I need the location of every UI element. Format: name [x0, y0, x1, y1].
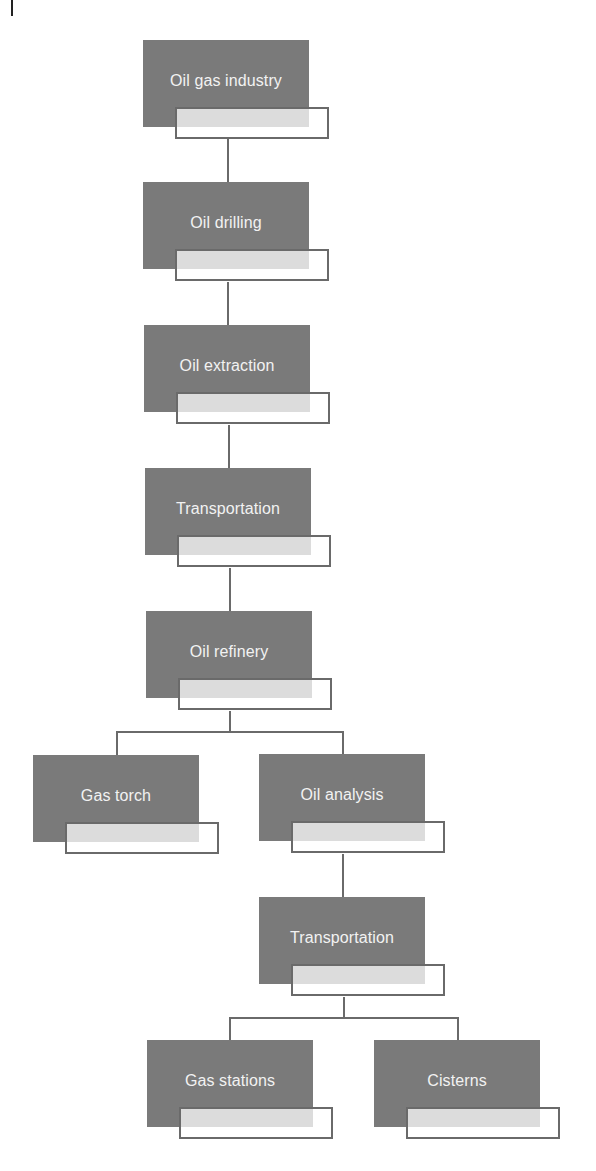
node-label: Oil extraction — [180, 357, 275, 375]
node-gas-torch: Gas torch — [33, 755, 223, 855]
node-oil-refinery: Oil refinery — [146, 611, 336, 711]
node-tab — [177, 535, 331, 567]
node-tab — [65, 822, 219, 854]
connector-n2-n3 — [227, 282, 229, 325]
node-tab — [406, 1107, 560, 1139]
connector-n7-n8 — [342, 854, 344, 897]
connector-to-n6 — [116, 731, 118, 755]
node-oil-extraction: Oil extraction — [144, 325, 334, 425]
connector-n3-n4 — [228, 425, 230, 468]
node-tab — [175, 107, 329, 139]
connector-to-n9 — [229, 1017, 231, 1040]
connector-to-n7 — [342, 731, 344, 754]
node-label: Gas torch — [81, 787, 151, 805]
node-transportation-1: Transportation — [145, 468, 335, 568]
node-oil-gas-industry: Oil gas industry — [143, 40, 333, 140]
node-tab — [179, 1107, 333, 1139]
connector-n8-branch — [229, 1017, 459, 1019]
node-label: Oil analysis — [300, 786, 383, 804]
node-tab — [175, 249, 329, 281]
node-tab — [176, 392, 330, 424]
node-label: Oil gas industry — [170, 72, 282, 90]
node-label: Transportation — [176, 500, 280, 518]
node-oil-drilling: Oil drilling — [143, 182, 333, 282]
node-label: Transportation — [290, 929, 394, 947]
connector-n4-n5 — [229, 568, 231, 611]
node-label: Cisterns — [427, 1072, 486, 1090]
connector-n1-n2 — [227, 139, 229, 182]
page-edge-mark — [11, 0, 13, 16]
node-label: Gas stations — [185, 1072, 275, 1090]
connector-n8-stem — [343, 997, 345, 1018]
connector-to-n10 — [457, 1017, 459, 1040]
node-label: Oil drilling — [190, 214, 261, 232]
node-tab — [291, 821, 445, 853]
connector-n5-stem — [229, 711, 231, 732]
node-cisterns: Cisterns — [374, 1040, 564, 1140]
node-oil-analysis: Oil analysis — [259, 754, 449, 854]
connector-n5-branch — [116, 731, 344, 733]
node-label: Oil refinery — [190, 643, 269, 661]
node-gas-stations: Gas stations — [147, 1040, 337, 1140]
node-tab — [291, 964, 445, 996]
node-transportation-2: Transportation — [259, 897, 449, 997]
node-tab — [178, 678, 332, 710]
